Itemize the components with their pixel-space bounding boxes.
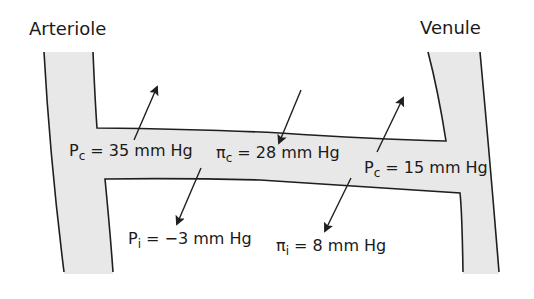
symbol: P: [364, 158, 374, 177]
subscript: c: [374, 166, 381, 180]
interstitial-oncotic-pressure: πi = 8 mm Hg: [276, 238, 386, 254]
subscript: i: [286, 244, 289, 258]
venule-label: Venule: [420, 19, 481, 37]
symbol: P: [69, 141, 79, 160]
capillary-top-wall: [93, 52, 446, 141]
capillary-hydrostatic-pressure-venous: Pc = 15 mm Hg: [364, 160, 488, 176]
value: = 35 mm Hg: [85, 141, 192, 160]
subscript: i: [138, 237, 141, 251]
capillary-hydrostatic-pressure-arterial: Pc = 35 mm Hg: [69, 143, 193, 159]
interstitial-oncotic-arrow: [325, 178, 351, 231]
value: = 28 mm Hg: [232, 143, 339, 162]
value: = 15 mm Hg: [380, 158, 487, 177]
symbol: π: [276, 236, 286, 255]
subscript: c: [79, 149, 86, 163]
value: = −3 mm Hg: [141, 229, 252, 248]
capillary-oncotic-pressure: πc = 28 mm Hg: [216, 145, 340, 161]
arteriole-label: Arteriole: [29, 20, 106, 38]
interstitial-hydrostatic-pressure: Pi = −3 mm Hg: [128, 231, 252, 247]
symbol: P: [128, 229, 138, 248]
capillary-bottom-wall: [105, 179, 463, 272]
value: = 8 mm Hg: [289, 236, 386, 255]
subscript: c: [226, 151, 233, 165]
symbol: π: [216, 143, 226, 162]
